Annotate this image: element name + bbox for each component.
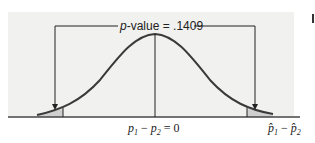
null-hypothesis-label: p1 − p2 = 0	[127, 121, 180, 137]
edge-mark	[312, 14, 314, 23]
normal-distribution-figure: p-value = .1409 p1 − p2 = 0 p̂1 − p̂2	[0, 0, 315, 143]
distribution-diagram: p-value = .1409 p1 − p2 = 0 p̂1 − p̂2	[0, 0, 315, 143]
left-tail-shaded-area	[37, 109, 63, 117]
p-value-label: p-value = .1409	[119, 19, 203, 33]
sample-difference-label: p̂1 − p̂2	[267, 121, 301, 137]
